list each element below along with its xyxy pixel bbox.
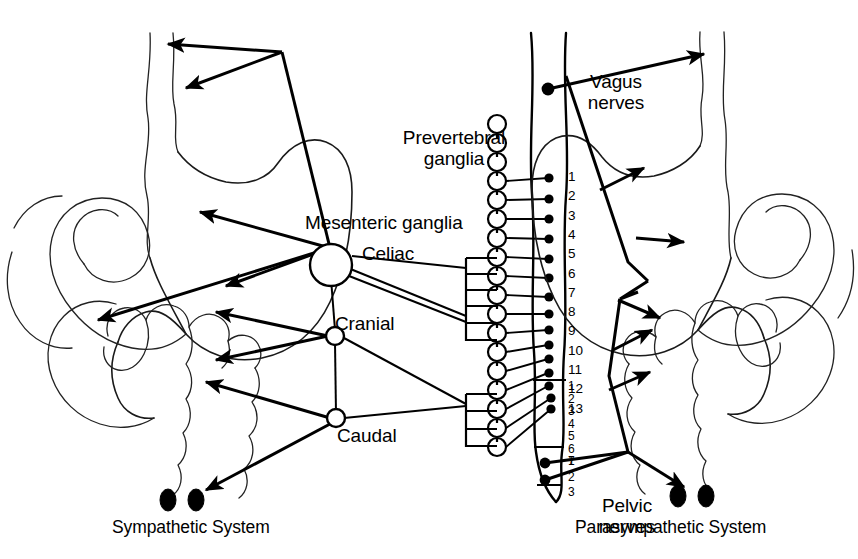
left-colon-outline-inner2: [173, 327, 192, 495]
right-small-intestine-outline-3: [766, 206, 810, 260]
root-dot: [544, 340, 553, 349]
left-rectum-terminal-1: [160, 489, 176, 511]
right-small-intestine-outline-4: [838, 250, 853, 318]
root-dot: [544, 234, 553, 243]
right-colon-outline-inner2: [692, 323, 711, 491]
root-dot: [544, 368, 553, 377]
right-esophagus-outline: [700, 32, 703, 146]
cranial-to-chain: [344, 338, 466, 404]
ramus: [506, 295, 548, 297]
vagus-to-small-intestine: [636, 238, 684, 242]
left-small-intestine-outline-3: [74, 210, 118, 264]
root-dot: [544, 381, 553, 390]
cranial-label: Cranial: [335, 313, 395, 334]
root-dot: [544, 194, 553, 203]
ramus: [506, 373, 548, 390]
right-small-intestine-outline: [698, 194, 834, 345]
segment-number: 1: [568, 380, 575, 392]
left-pylorus-outline: [112, 342, 154, 418]
vagus-to-stomach: [600, 168, 644, 190]
ramus: [506, 398, 551, 428]
vagus-to-colon-arrow: [618, 300, 660, 318]
sympathetic-system-label: Sympathetic System: [112, 518, 270, 538]
segment-number: 4: [568, 418, 575, 430]
root-dot: [544, 214, 553, 223]
segment-number: 3: [568, 486, 575, 498]
ramus: [506, 330, 548, 333]
left-rectum-terminal-2: [188, 489, 204, 511]
spinal-cord: [531, 33, 567, 502]
segment-number: 2: [568, 471, 575, 483]
pelvic-nerves-label: Pelvic nerves: [588, 452, 666, 559]
caudal-label: Caudal: [337, 425, 397, 446]
ramus: [506, 276, 548, 278]
segment-number: 6: [568, 443, 575, 455]
root-dot: [544, 173, 553, 182]
parasympathetic-to-colon-low: [609, 372, 650, 390]
left-colon-outline-join: [222, 341, 229, 368]
spinal-cord-left-border: [531, 33, 556, 502]
celiac-label: Celiac: [362, 243, 414, 264]
left-stomach-lesser-curve: [150, 258, 186, 334]
left-small-intestine-outline-4: [7, 252, 72, 348]
caudal-to-rectum: [206, 424, 330, 490]
right-rectum-terminal-1: [670, 485, 686, 507]
right-stomach-lesser-curve: [698, 258, 731, 330]
root-dot: [544, 325, 553, 334]
segment-number: 1: [568, 455, 575, 467]
segment-number: 3: [568, 209, 576, 223]
rami-communicantes: [506, 178, 551, 447]
cranial-to-colon-1: [216, 312, 328, 336]
left-colon-outline-inner: [104, 320, 149, 370]
left-small-intestine-outline: [50, 198, 186, 349]
left-esophagus-outline: [145, 33, 151, 258]
right-small-intestine-outline-2: [728, 297, 834, 423]
ramus: [506, 257, 548, 259]
segment-number: 8: [568, 305, 576, 319]
mesenteric-ganglia-label: Mesenteric ganglia: [305, 212, 463, 233]
left-small-intestine-outline-5: [14, 196, 62, 228]
vagus-nerves-label: Vagus nerves: [566, 28, 666, 156]
celiac-to-intestine: [98, 248, 330, 320]
segment-number: 7: [568, 286, 576, 300]
caudal-to-chain: [344, 406, 466, 418]
root-dot: [546, 393, 555, 402]
left-colon-outline-descending: [239, 368, 259, 498]
right-pylorus-outline: [728, 338, 770, 414]
ramus: [506, 359, 548, 371]
ramus: [506, 409, 551, 447]
ramus: [506, 238, 548, 239]
ramus: [506, 345, 548, 352]
right-esophagus-outline-2: [723, 32, 731, 258]
parasympathetic-system-label: Parasympathetic System: [575, 518, 766, 538]
root-dot: [544, 254, 553, 263]
prevertebral-ganglia-label: Prevertebral ganglia: [392, 84, 516, 212]
celiac-trunk-upper: [186, 52, 282, 88]
segment-number: 5: [568, 247, 576, 261]
autonomic-innervation-diagram: Prevertebral ganglia Mesenteric ganglia …: [0, 0, 858, 559]
segment-number: 4: [568, 228, 576, 242]
segment-number: 3: [568, 405, 575, 417]
segment-number: 2: [568, 189, 576, 203]
root-dot: [544, 309, 553, 318]
segment-number: 2: [568, 393, 575, 405]
celiac-ganglion: [310, 244, 352, 286]
celiac-to-chain-2: [348, 268, 466, 316]
caudal-to-colon: [206, 382, 330, 418]
cranial-to-colon-2: [216, 336, 328, 360]
celiac-to-esophagus-upper: [168, 44, 282, 52]
segment-number: 9: [568, 324, 576, 338]
vagus-to-colon-branch: [620, 281, 648, 299]
segment-number: 6: [568, 267, 576, 281]
segment-number: 11: [568, 363, 582, 377]
root-dot: [544, 354, 553, 363]
right-colon-outline-join: [655, 337, 662, 364]
right-rectum-terminal-2: [698, 485, 714, 507]
cranial-to-caudal-link: [335, 342, 336, 414]
segment-number: 5: [568, 430, 575, 442]
ramus: [506, 386, 548, 409]
left-esophagus-outline-2: [173, 33, 178, 152]
segment-number: 10: [568, 344, 583, 358]
root-dot: [546, 404, 555, 413]
segment-number: 1: [568, 170, 576, 184]
